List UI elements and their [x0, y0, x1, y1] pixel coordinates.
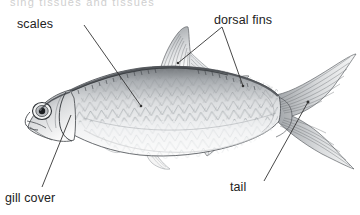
label-tail: tail [230, 180, 246, 194]
fish-illustration [0, 0, 360, 215]
label-scales: scales [17, 17, 53, 31]
label-dorsal-fins: dorsal fins [214, 13, 272, 27]
fish-anatomy-figure: sing tissues and tissues [0, 0, 360, 215]
tail-fin-shape [276, 54, 356, 169]
dorsal-fin-shape [160, 27, 210, 71]
fish-head [25, 90, 75, 141]
label-gill-cover: gill cover [5, 191, 55, 205]
fish-body [40, 60, 290, 165]
